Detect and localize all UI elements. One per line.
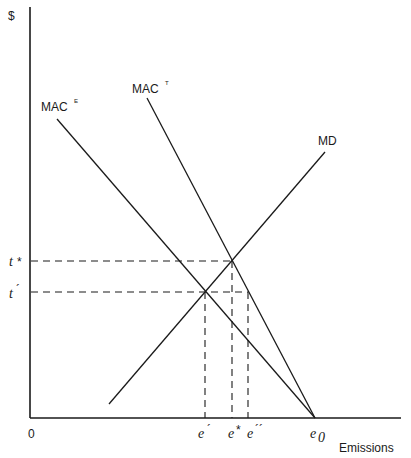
- abatement-diagram: $ 0 Emissions MAC E MAC T MD t * t ´ e ´…: [0, 0, 411, 458]
- svg-text:MAC: MAC: [41, 100, 68, 114]
- e-double-prime-label: e ´´: [247, 423, 263, 441]
- svg-text:e: e: [228, 426, 234, 441]
- t-prime-label: t ´: [9, 283, 20, 301]
- svg-text:t: t: [9, 254, 14, 269]
- svg-text:e: e: [247, 426, 253, 441]
- svg-text:E: E: [74, 98, 78, 104]
- e-prime-label: e ´: [198, 423, 211, 441]
- mac-e-label: MAC E: [41, 98, 78, 114]
- svg-text:e: e: [198, 426, 204, 441]
- origin-label: 0: [28, 427, 35, 441]
- svg-text:MAC: MAC: [132, 82, 159, 96]
- svg-text:0: 0: [318, 430, 325, 445]
- svg-text:T: T: [165, 80, 169, 86]
- svg-text:´´: ´´: [255, 423, 263, 437]
- mac-t-label: MAC T: [132, 80, 169, 96]
- svg-text:´: ´: [207, 423, 211, 437]
- mac-t-curve: [147, 98, 315, 418]
- svg-text:*: *: [17, 255, 22, 269]
- e-star-label: e *: [228, 423, 241, 441]
- svg-text:e: e: [310, 426, 316, 441]
- y-axis-label: $: [8, 9, 15, 23]
- svg-text:*: *: [236, 423, 241, 437]
- md-label: MD: [318, 134, 337, 148]
- mac-e-curve: [57, 119, 315, 418]
- x-axis-label: Emissions: [339, 441, 394, 455]
- svg-text:t: t: [9, 286, 14, 301]
- t-star-label: t *: [9, 254, 22, 269]
- svg-text:´: ´: [16, 283, 20, 297]
- md-curve: [109, 152, 325, 404]
- e-zero-label: e 0: [310, 426, 325, 445]
